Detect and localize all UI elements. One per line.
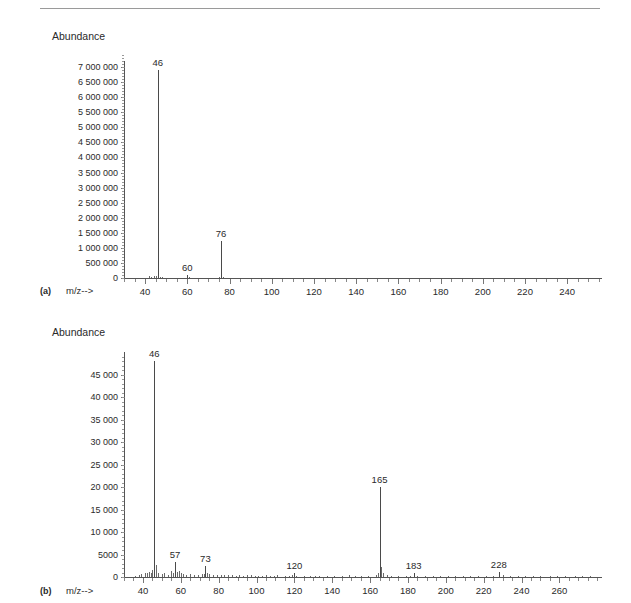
- spectrum-peak: [247, 575, 248, 577]
- x-axis-tick: [181, 578, 182, 583]
- x-axis-tick: [408, 578, 409, 583]
- peak-label: 73: [200, 553, 211, 564]
- spectrum-peak: [381, 567, 382, 577]
- spectrum-peak: [262, 576, 263, 577]
- y-axis-minor-tick: [122, 537, 124, 538]
- spectrum-peak: [186, 575, 187, 577]
- y-axis-tick-label: 15 000: [66, 505, 118, 515]
- x-axis-minor-tick: [275, 578, 276, 581]
- y-axis-minor-tick: [122, 415, 124, 416]
- spectrum-peak: [387, 575, 388, 577]
- spectrum-peak: [383, 573, 384, 577]
- x-axis-minor-tick: [323, 578, 324, 581]
- y-axis-tick-label: 0: [66, 572, 118, 582]
- x-axis-tick: [257, 578, 258, 583]
- spectrum-peak: [550, 576, 551, 577]
- x-axis-tick: [332, 578, 333, 583]
- spectrum-peak: [190, 574, 191, 577]
- x-axis-minor-tick: [493, 578, 494, 581]
- y-axis-tick-label: 40 000: [66, 392, 118, 402]
- spectrum-peak: [177, 572, 178, 577]
- spectrum-peak: [557, 576, 558, 577]
- spectrum-peak: [162, 574, 163, 577]
- x-axis-tick-label: 220: [476, 585, 492, 596]
- spectrum-peak: [277, 575, 278, 577]
- spectrum-peak: [310, 576, 311, 577]
- spectrum-peak: [510, 576, 511, 577]
- spectrum-peak-labeled: [499, 572, 500, 577]
- x-axis-minor-tick: [550, 578, 551, 581]
- x-axis-minor-tick: [228, 578, 229, 581]
- y-axis-minor-tick: [122, 474, 124, 475]
- y-axis-minor-tick: [122, 550, 124, 551]
- x-axis-tick: [219, 578, 220, 583]
- spectrum-peak: [334, 576, 335, 577]
- y-axis-minor-tick: [122, 541, 124, 542]
- y-axis-minor-tick: [122, 442, 124, 443]
- y-axis-tick-label: 10 000: [66, 527, 118, 537]
- x-axis-minor-tick: [597, 578, 598, 581]
- page-root: Abundance 0500 0001 000 0001 500 0002 00…: [0, 0, 631, 603]
- spectrum-peak: [525, 576, 526, 577]
- x-axis-minor-tick: [588, 578, 589, 581]
- y-axis-minor-tick: [122, 447, 124, 448]
- x-axis-minor-tick: [171, 578, 172, 581]
- spectrum-peak: [540, 576, 541, 577]
- spectrum-peak: [342, 576, 343, 577]
- x-axis-minor-tick: [465, 578, 466, 581]
- spectrum-peak: [493, 576, 494, 577]
- x-axis-tick: [522, 578, 523, 583]
- y-axis-minor-tick: [122, 451, 124, 452]
- spectrum-peak: [156, 565, 157, 577]
- y-axis-minor-tick: [122, 532, 124, 533]
- spectrum-peak: [135, 576, 136, 577]
- y-axis-minor-tick: [122, 379, 124, 380]
- spectrum-peak: [164, 573, 165, 577]
- spectrum-peak: [361, 576, 362, 577]
- spectrum-peak: [486, 576, 487, 577]
- y-axis-minor-tick: [122, 559, 124, 560]
- y-axis-minor-tick: [122, 564, 124, 565]
- spectrum-peak: [258, 576, 259, 577]
- spectrum-peak: [410, 576, 411, 577]
- y-axis-minor-tick: [122, 424, 124, 425]
- spectrum-peak: [173, 573, 174, 577]
- x-axis-tick-label: 180: [400, 585, 416, 596]
- x-axis-tick-label: 60: [175, 585, 186, 596]
- spectrum-peak: [327, 576, 328, 577]
- x-axis-minor-tick: [503, 578, 504, 581]
- x-axis-minor-tick: [380, 578, 381, 581]
- y-axis-minor-tick: [122, 505, 124, 506]
- spectrum-peak: [145, 573, 146, 577]
- spectrum-peak: [198, 575, 199, 577]
- spectrum-peak-labeled: [154, 361, 155, 577]
- peak-label: 165: [372, 474, 388, 485]
- y-axis-minor-tick: [122, 568, 124, 569]
- x-axis-minor-tick: [209, 578, 210, 581]
- spectrum-peak: [355, 576, 356, 577]
- peak-label: 57: [170, 549, 181, 560]
- y-axis-minor-tick: [122, 388, 124, 389]
- y-axis-minor-tick: [122, 465, 124, 466]
- x-axis-tick: [294, 578, 295, 583]
- spectrum-peak: [139, 575, 140, 577]
- x-axis-tick-label: 40: [138, 585, 149, 596]
- y-axis-minor-tick: [122, 370, 124, 371]
- x-axis-minor-tick: [398, 578, 399, 581]
- x-axis-tick-label: 240: [514, 585, 530, 596]
- x-axis-minor-tick: [417, 578, 418, 581]
- spectrum-peak-labeled: [205, 566, 206, 577]
- x-axis-tick: [446, 578, 447, 583]
- spectrum-peak: [168, 575, 169, 577]
- spectrum-peak-labeled: [294, 573, 295, 577]
- spectrum-peak: [478, 576, 479, 577]
- spectrum-peak: [406, 576, 407, 577]
- spectrum-peak: [368, 576, 369, 577]
- spectrum-peak: [243, 576, 244, 577]
- y-axis-minor-tick: [122, 357, 124, 358]
- spectrum-peak: [448, 576, 449, 577]
- spectrum-peak: [518, 576, 519, 577]
- spectrum-peak: [417, 576, 418, 577]
- spectrum-peak: [149, 572, 150, 577]
- x-axis-minor-tick: [427, 578, 428, 581]
